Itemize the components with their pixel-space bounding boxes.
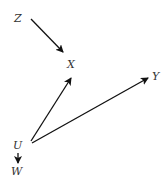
edge-u-to-y (32, 78, 148, 143)
edge-z-to-x (31, 19, 63, 52)
causal-diagram: Z X Y U W (0, 0, 166, 181)
node-x-label: X (66, 58, 76, 71)
node-w-label: W (11, 165, 24, 178)
node-y-label: Y (152, 70, 161, 83)
node-u-label: U (13, 139, 23, 152)
node-z-label: Z (13, 12, 22, 25)
edge-u-to-x (31, 78, 71, 141)
